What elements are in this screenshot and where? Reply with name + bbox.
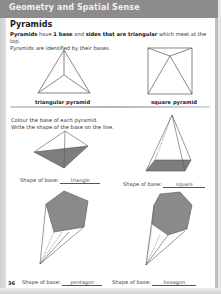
triangular-pyramid-figure <box>36 48 92 98</box>
exercise-3-base[interactable] <box>46 191 88 232</box>
exercise-1-answer-field[interactable]: triangle <box>60 177 100 184</box>
exercise-4-base[interactable] <box>152 192 192 235</box>
header-banner: Geometry and Spatial Sense <box>0 0 218 18</box>
exercise-2-answer-field[interactable]: square <box>163 181 205 188</box>
exercise-2-label: Shape of base: <box>123 181 162 187</box>
exercise-4-label: Shape of base: <box>112 279 151 285</box>
instruction-line-1: Colour the base of each pyramid. <box>11 117 98 123</box>
exercise-1-pyramid-figure[interactable] <box>32 130 92 170</box>
square-pyramid-figure <box>147 47 193 95</box>
exercise-2-pyramid-figure[interactable] <box>143 113 193 178</box>
caption-triangular-pyramid: triangular pyramid <box>35 99 90 105</box>
exercise-4-pyramid-figure[interactable] <box>144 191 196 267</box>
exercise-2-base[interactable] <box>146 160 191 171</box>
intro-bold-sides: sides that are triangular <box>86 31 158 37</box>
exercise-2-answer-row: Shape of base: square <box>123 181 205 188</box>
section-divider <box>10 106 210 108</box>
caption-square-pyramid: square pyramid <box>151 99 197 105</box>
page-bottom-shadow <box>0 288 221 294</box>
exercise-3-answer-row: Shape of base: pentagon <box>22 279 102 286</box>
instructions: Colour the base of each pyramid. Write t… <box>11 117 114 131</box>
intro-bold-base: 1 base <box>53 31 72 37</box>
exercise-3-label: Shape of base: <box>22 279 61 285</box>
section-title: Pyramids <box>10 20 52 29</box>
exercise-4-answer-field[interactable]: hexagon <box>152 279 196 286</box>
exercise-3-answer-field[interactable]: pentagon <box>62 279 102 286</box>
exercise-1-base[interactable] <box>34 146 88 168</box>
page-number: 36 <box>8 280 15 286</box>
intro-text-1: have <box>37 31 53 37</box>
exercise-1-answer-row: Shape of base: triangle <box>20 177 100 184</box>
header-title: Geometry and Spatial Sense <box>9 3 140 12</box>
exercise-3-pyramid-figure[interactable] <box>38 188 94 266</box>
intro-text-2: and <box>73 31 86 37</box>
intro-term: Pyramids <box>10 31 37 37</box>
exercise-4-answer-row: Shape of base: hexagon <box>112 279 196 286</box>
exercise-1-label: Shape of base: <box>20 177 59 183</box>
